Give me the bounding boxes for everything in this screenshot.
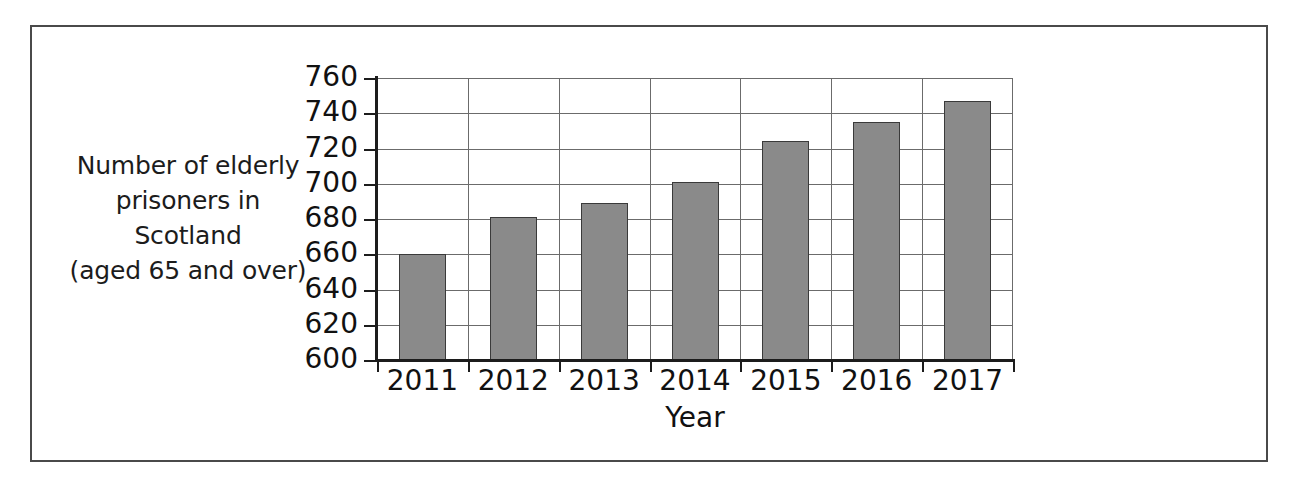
x-axis-tick-label: 2012 xyxy=(467,366,559,396)
plot-area xyxy=(377,78,1013,360)
bar xyxy=(399,254,446,360)
x-axis-line xyxy=(375,359,1015,362)
gridline-h xyxy=(377,113,1013,114)
gridline-v xyxy=(831,78,832,360)
y-axis-tick-labels: 760740720700680660640620600 xyxy=(284,0,358,488)
x-axis-tick-label: 2013 xyxy=(558,366,650,396)
y-axis-tick xyxy=(364,254,376,256)
x-axis-tick-label: 2011 xyxy=(376,366,468,396)
y-axis-tick-label: 620 xyxy=(284,310,358,338)
y-axis-tick xyxy=(364,113,376,115)
gridline-h xyxy=(377,149,1013,150)
y-axis-tick-label: 700 xyxy=(284,169,358,197)
y-axis-tick xyxy=(364,360,376,362)
x-axis-tick-label: 2017 xyxy=(922,366,1014,396)
y-axis-tick-label: 720 xyxy=(284,134,358,162)
x-axis-tick-label: 2015 xyxy=(740,366,832,396)
bar xyxy=(490,217,537,360)
y-axis-tick xyxy=(364,184,376,186)
y-axis-tick-label: 740 xyxy=(284,98,358,126)
y-axis-tick xyxy=(364,325,376,327)
bar xyxy=(944,101,991,360)
chart-page: Number of elderly prisoners in Scotland … xyxy=(0,0,1302,488)
gridline-v xyxy=(468,78,469,360)
y-axis-tick xyxy=(364,219,376,221)
y-axis-tick xyxy=(364,290,376,292)
gridline-v xyxy=(922,78,923,360)
y-axis-tick xyxy=(364,149,376,151)
x-axis-tick-label: 2016 xyxy=(831,366,923,396)
gridline-v xyxy=(559,78,560,360)
y-axis-tick-label: 680 xyxy=(284,204,358,232)
gridline-v xyxy=(650,78,651,360)
bar xyxy=(762,141,809,360)
y-axis-tick-label: 660 xyxy=(284,239,358,267)
bar xyxy=(853,122,900,360)
y-axis-tick-label: 600 xyxy=(284,345,358,373)
x-axis-title: Year xyxy=(377,402,1013,434)
gridline-v xyxy=(740,78,741,360)
bar xyxy=(581,203,628,360)
bar xyxy=(672,182,719,360)
y-axis-tick-label: 760 xyxy=(284,63,358,91)
y-axis-tick-label: 640 xyxy=(284,275,358,303)
gridline-h xyxy=(377,78,1013,79)
x-axis-tick-label: 2014 xyxy=(649,366,741,396)
y-axis-tick xyxy=(364,78,376,80)
